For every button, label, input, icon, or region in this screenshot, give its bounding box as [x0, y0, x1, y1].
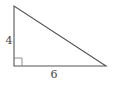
right-triangle-diagram: 4 6 [0, 0, 113, 86]
horizontal-side-label: 6 [51, 68, 58, 81]
vertical-side-label: 4 [6, 34, 13, 47]
triangle-outline [14, 6, 106, 66]
right-angle-marker [14, 58, 22, 66]
